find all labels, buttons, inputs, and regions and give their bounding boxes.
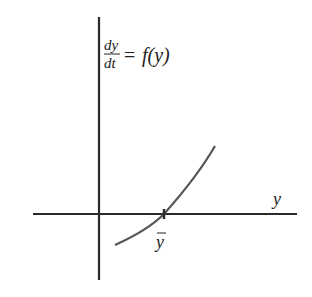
equilibrium-symbol: y: [154, 232, 164, 252]
equation-denominator: dt: [104, 55, 117, 71]
function-curve: [115, 146, 215, 245]
equation-numerator: dy: [104, 37, 119, 53]
equilibrium-label: y: [154, 232, 166, 252]
equation-equals: =: [124, 44, 135, 66]
equation-rhs: f(y): [142, 44, 170, 67]
x-axis-label: y: [271, 189, 281, 209]
phase-line-diagram: dy dt = f(y) y y: [0, 0, 312, 297]
equation-label: dy dt = f(y): [104, 37, 170, 71]
